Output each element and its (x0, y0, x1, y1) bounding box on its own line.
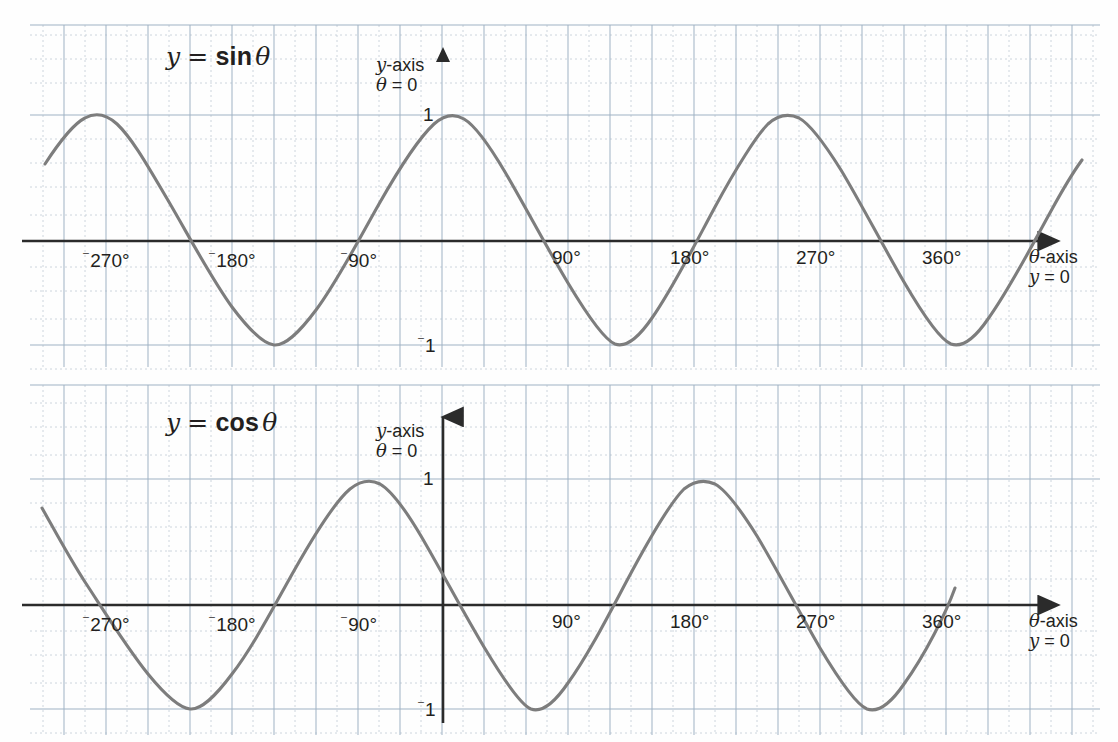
title-lhs: y (166, 408, 180, 437)
y-axis-theta-zero: θ = 0 (376, 75, 424, 95)
x-tick-label: 180° (670, 248, 709, 269)
x-tick-label: 360° (922, 612, 961, 633)
y-axis-note-sine: y-axis θ = 0 (376, 55, 424, 96)
x-tick-label: ⁻180° (208, 612, 256, 636)
theta-axis-y-zero: y = 0 (1029, 631, 1078, 651)
cosine-curve (42, 481, 955, 710)
chart-panel-cosine: y=cosθ y-axis θ = 0 1 ⁻1 ⁻270° ⁻180° ⁻90… (0, 371, 1118, 742)
x-tick-label: 360° (922, 248, 961, 269)
chart-panel-sine: y=sinθ y-axis θ = 0 1 ⁻1 ⁻270° ⁻180° ⁻90… (0, 0, 1118, 371)
chart-title-sine: y=sinθ (166, 43, 270, 70)
x-tick-label: 270° (796, 612, 835, 633)
title-equals: = (187, 42, 208, 71)
chart-title-cosine: y=cosθ (166, 409, 277, 436)
y-axis-note-cosine: y-axis θ = 0 (376, 421, 424, 462)
y-axis-theta-zero: θ = 0 (376, 441, 424, 461)
y-tick-label-negative-one-cosine: ⁻1 (417, 697, 436, 721)
title-argument: θ (255, 42, 270, 71)
figure-root: y=sinθ y-axis θ = 0 1 ⁻1 ⁻270° ⁻180° ⁻90… (0, 0, 1118, 742)
x-tick-label: ⁻270° (82, 612, 130, 636)
x-tick-label: ⁻90° (340, 612, 377, 636)
title-function: sin (215, 42, 252, 70)
x-tick-label: ⁻90° (340, 248, 377, 272)
y-tick-label-negative-one-sine: ⁻1 (417, 333, 436, 357)
theta-axis-label: θ-axis (1029, 247, 1078, 267)
y-tick-label-positive-one-cosine: 1 (423, 469, 434, 490)
x-axis-note-sine: θ-axis y = 0 (1029, 247, 1078, 288)
x-tick-label: 90° (552, 248, 581, 269)
x-tick-label: ⁻270° (82, 248, 130, 272)
title-function: cos (215, 408, 259, 436)
sine-curve (45, 115, 1082, 345)
title-equals: = (187, 408, 208, 437)
theta-axis-y-zero: y = 0 (1029, 267, 1078, 287)
x-tick-label: 180° (670, 612, 709, 633)
theta-axis-label: θ-axis (1029, 611, 1078, 631)
y-axis-arrow-icon (436, 47, 450, 62)
x-tick-label: 270° (796, 248, 835, 269)
title-lhs: y (166, 42, 180, 71)
y-tick-label-positive-one-sine: 1 (423, 105, 434, 126)
x-tick-label: ⁻180° (208, 248, 256, 272)
y-axis-label: y-axis (376, 55, 424, 75)
y-axis-label: y-axis (376, 421, 424, 441)
x-tick-label: 90° (552, 612, 581, 633)
title-argument: θ (262, 408, 277, 437)
grid-major-vertical (64, 25, 1072, 367)
x-axis-note-cosine: θ-axis y = 0 (1029, 611, 1078, 652)
